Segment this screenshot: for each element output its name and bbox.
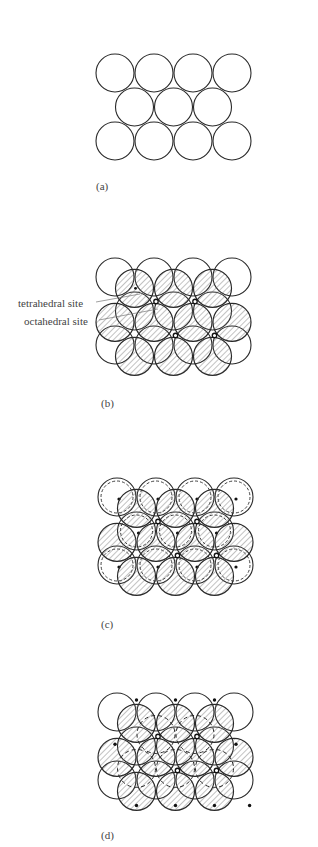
layer-b-sphere — [213, 303, 251, 341]
interstitial-site-marker — [156, 734, 160, 738]
layer-a-sphere — [194, 88, 232, 126]
site-center-dot — [213, 698, 216, 701]
octahedral-site-label: octahedral site — [24, 315, 88, 327]
panel-b-diagram — [96, 258, 251, 375]
layer-b-sphere — [196, 704, 234, 742]
layer-a-sphere — [213, 54, 251, 92]
site-center-dot — [234, 743, 237, 746]
interstitial-site-marker — [175, 553, 179, 557]
site-center-dot — [134, 287, 137, 290]
interstitial-site-marker — [156, 519, 160, 523]
layer-b-sphere — [215, 523, 253, 561]
layer-a-sphere — [174, 54, 212, 92]
layer-b-sphere — [157, 489, 195, 527]
layer-b-sphere — [118, 704, 156, 742]
site-center-dot — [234, 497, 237, 500]
panel-c-diagram — [98, 478, 253, 595]
interstitial-site-marker — [214, 768, 218, 772]
tetrahedral-site-label: tetrahedral site — [18, 297, 83, 309]
site-center-dot — [135, 698, 138, 701]
layer-a-sphere — [96, 122, 134, 160]
layer-b-sphere — [155, 269, 193, 307]
layer-b-sphere — [176, 523, 214, 561]
layer-b-sphere — [174, 303, 212, 341]
layer-b-sphere — [194, 337, 232, 375]
layer-a-sphere — [116, 88, 154, 126]
close-packing-figure — [0, 0, 318, 847]
layer-b-sphere — [157, 704, 195, 742]
layer-a-sphere — [96, 54, 134, 92]
layer-b-sphere — [155, 337, 193, 375]
layer-b-sphere — [98, 738, 136, 776]
layer-b-sphere — [196, 489, 234, 527]
layer-b-sphere — [215, 738, 253, 776]
panel-label-d: (d) — [101, 829, 114, 841]
panel-label-b: (b) — [101, 397, 114, 409]
layer-b-sphere — [196, 557, 234, 595]
site-center-dot — [248, 804, 251, 807]
site-center-dot — [213, 804, 216, 807]
panel-a-diagram — [96, 54, 251, 160]
site-center-dot — [174, 804, 177, 807]
layer-a-sphere — [174, 122, 212, 160]
panel-label-a: (a) — [96, 180, 108, 192]
layer-b-sphere — [96, 303, 134, 341]
layer-b-sphere — [194, 269, 232, 307]
interstitial-site-marker — [193, 299, 197, 303]
layer-b-sphere — [116, 337, 154, 375]
layer-a-sphere — [135, 54, 173, 92]
interstitial-site-marker — [154, 299, 158, 303]
site-center-dot — [113, 743, 116, 746]
layer-b-sphere — [137, 523, 175, 561]
interstitial-site-marker — [214, 553, 218, 557]
interstitial-site-marker — [175, 768, 179, 772]
interstitial-site-marker — [173, 333, 177, 337]
site-center-dot — [135, 804, 138, 807]
interstitial-site-marker — [212, 333, 216, 337]
layer-a-sphere — [135, 122, 173, 160]
layer-a-sphere — [155, 88, 193, 126]
layer-b-sphere — [118, 557, 156, 595]
layer-b-sphere — [157, 557, 195, 595]
layer-b-sphere — [135, 303, 173, 341]
site-center-dot — [174, 698, 177, 701]
layer-b-sphere — [118, 489, 156, 527]
interstitial-site-marker — [195, 734, 199, 738]
panel-d-diagram — [98, 693, 253, 810]
layer-b-sphere — [176, 738, 214, 776]
layer-b-sphere — [137, 738, 175, 776]
interstitial-site-marker — [195, 519, 199, 523]
layer-b-sphere — [98, 523, 136, 561]
panel-label-c: (c) — [101, 618, 113, 630]
layer-a-sphere — [213, 122, 251, 160]
site-center-dot — [234, 565, 237, 568]
